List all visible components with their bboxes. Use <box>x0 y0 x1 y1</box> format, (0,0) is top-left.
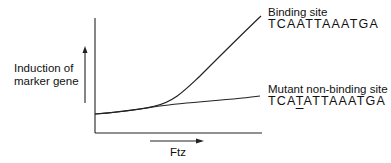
mutant-seq-suffix: ATTAAATGA <box>304 94 386 108</box>
mutant-seq-prefix: TCA <box>268 94 296 108</box>
mutant-site-curve <box>95 96 260 114</box>
up-arrow-icon <box>83 46 88 103</box>
binding-site-sequence: TCAATTAAATGA <box>268 18 379 31</box>
y-axis-label-line1: Induction of <box>14 62 73 75</box>
x-axis-label: Ftz <box>170 146 186 159</box>
binding-site-curve <box>95 16 261 114</box>
mutated-base: T <box>296 94 304 108</box>
y-axis-label-line2: marker gene <box>14 75 79 88</box>
mutant-site-sequence: TCATATTAAATGA <box>268 95 386 108</box>
right-arrow-icon <box>150 139 204 144</box>
